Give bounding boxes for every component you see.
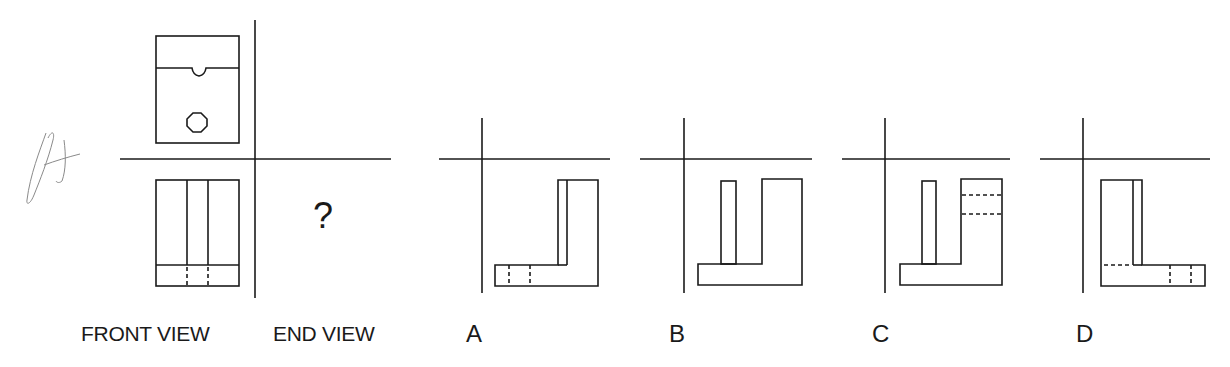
option-c-label[interactable]: C	[872, 320, 889, 348]
option-d-drawing[interactable]	[1040, 118, 1210, 293]
option-c-drawing[interactable]	[842, 118, 1010, 293]
top-view	[156, 36, 239, 143]
handwritten-answer-mark	[27, 133, 80, 203]
question-axes	[120, 20, 391, 298]
option-a-label[interactable]: A	[466, 320, 482, 348]
option-b-label[interactable]: B	[669, 320, 685, 348]
front-view-label: FRONT VIEW	[81, 322, 209, 346]
end-view-unknown: ?	[313, 195, 333, 237]
option-b-drawing[interactable]	[640, 118, 812, 293]
option-d-label[interactable]: D	[1076, 320, 1093, 348]
option-a-drawing[interactable]	[439, 118, 610, 293]
diagram-canvas	[0, 0, 1230, 367]
end-view-label: END VIEW	[273, 322, 374, 346]
octagon-hole-icon	[187, 113, 207, 132]
front-view	[156, 180, 239, 286]
